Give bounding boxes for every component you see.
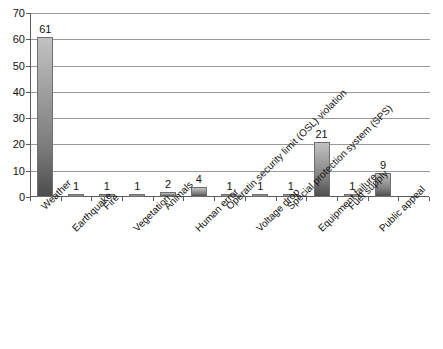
x-axis-tick-mark [214,197,215,201]
x-axis-tick-mark [153,197,154,201]
bar-slot: 1 [91,13,122,197]
bar[interactable] [37,37,53,197]
bar-value-label: 61 [39,24,51,35]
bar-slot: 1 [122,13,153,197]
bar-chart: 706050403020100 61111241112119 WeatherEa… [0,0,443,349]
x-axis-tick-mark [91,197,92,201]
y-axis-tick-label: 20 [0,139,25,150]
x-axis-tick-mark [429,197,430,201]
bar-slot: 1 [214,13,245,197]
bar-value-label: 1 [73,181,79,192]
x-axis-tick-mark [337,197,338,201]
bar-slot: 1 [276,13,307,197]
bar-value-label: 2 [165,179,171,190]
bar-slot: 61 [30,13,61,197]
bar-value-label: 1 [134,181,140,192]
y-axis-tick-label: 50 [0,61,25,72]
x-axis-tick-mark [276,197,277,201]
bar-value-label: 21 [315,129,327,140]
y-axis-tick-label: 70 [0,8,25,19]
bars-layer: 61111241112119 [30,13,429,197]
y-axis-tick-label: 30 [0,113,25,124]
y-axis-tick-label: 60 [0,34,25,45]
y-axis-tick-label: 10 [0,166,25,177]
bar-slot: 4 [183,13,214,197]
y-axis-tick-label: 0 [0,192,25,203]
y-axis-tick-label: 40 [0,87,25,98]
bar-value-label: 4 [196,174,202,185]
bar-slot: 2 [153,13,184,197]
bar-slot: 1 [337,13,368,197]
x-axis-tick-mark [30,197,31,201]
x-axis-tick-mark [398,197,399,201]
bar-slot: 1 [61,13,92,197]
x-axis-tick-mark [122,197,123,201]
